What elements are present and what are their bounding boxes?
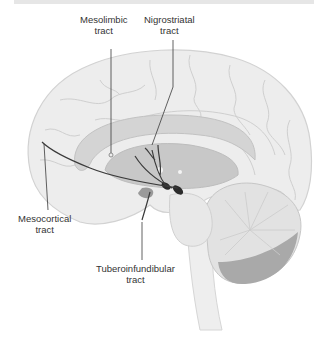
pineal-spot	[178, 170, 182, 174]
nigrostriatal-label-line1: Nigrostriatal	[144, 14, 195, 25]
mesolimbic-label-line1: Mesolimbic	[80, 14, 128, 25]
mesolimbic-label: Mesolimbic tract	[80, 14, 128, 36]
mesolimbic-label-line2: tract	[80, 25, 128, 36]
nigrostriatal-label: Nigrostriatal tract	[144, 14, 195, 36]
nigrostriatal-label-line2: tract	[144, 25, 195, 36]
tuberoinfundibular-label: Tuberoinfundibular tract	[96, 263, 175, 285]
pons	[170, 193, 213, 246]
mesocortical-label-line2: tract	[18, 224, 71, 235]
tuberoinfundibular-label-line2: tract	[96, 274, 175, 285]
mesocortical-label-line1: Mesocortical	[18, 213, 71, 224]
brain-diagram	[0, 0, 325, 349]
mesocortical-label: Mesocortical tract	[18, 213, 71, 235]
tuberoinfundibular-label-line1: Tuberoinfundibular	[96, 263, 175, 274]
